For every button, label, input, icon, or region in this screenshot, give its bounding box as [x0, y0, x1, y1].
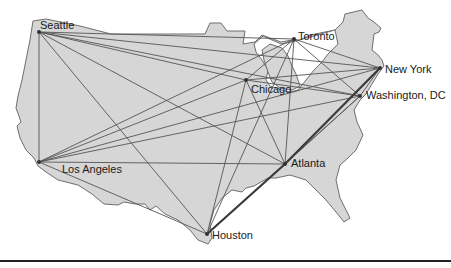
label-atlanta: Atlanta	[291, 158, 325, 169]
node-losangeles[interactable]	[37, 160, 41, 164]
node-washington[interactable]	[358, 94, 362, 98]
node-toronto[interactable]	[292, 37, 296, 41]
label-washington: Washington, DC	[366, 90, 446, 101]
label-newyork: New York	[385, 64, 431, 75]
bottom-rule	[0, 260, 451, 262]
label-houston: Houston	[212, 230, 253, 241]
node-newyork[interactable]	[378, 66, 382, 70]
node-atlanta[interactable]	[283, 162, 287, 166]
label-seattle: Seattle	[40, 20, 74, 31]
label-toronto: Toronto	[298, 31, 335, 42]
us-network-map	[0, 0, 451, 268]
node-houston[interactable]	[205, 232, 209, 236]
label-losangeles: Los Angeles	[62, 164, 122, 175]
label-chicago: Chicago	[251, 84, 291, 95]
node-chicago[interactable]	[244, 78, 248, 82]
